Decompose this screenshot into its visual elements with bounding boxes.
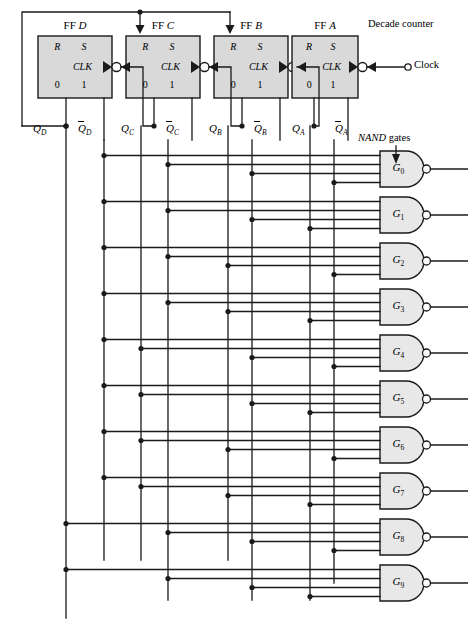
- gate-8-input-3-tap: [331, 548, 336, 553]
- nand-gate-8-bubble: [423, 533, 431, 541]
- gate-1-input-0-tap: [101, 199, 106, 204]
- gate-2-input-0-tap: [101, 245, 106, 250]
- nand-gate-1-label: G1: [393, 207, 405, 222]
- gate-2-input-1-tap: [165, 254, 170, 259]
- label-qd: QD: [33, 122, 46, 137]
- q-junction-dot: [239, 123, 244, 128]
- ff-b-clk-label: CLK: [249, 61, 268, 72]
- flipflop-title-b: FF B: [240, 19, 262, 31]
- label-qc-bar: QC: [166, 122, 179, 137]
- ff-c-input-r: R: [142, 41, 148, 52]
- gate-5-input-0-tap: [101, 383, 106, 388]
- nand-gate-0-label: G0: [393, 161, 405, 176]
- ffc-set-arrow: [136, 25, 145, 34]
- clock-label: Clock: [414, 59, 439, 70]
- nand-gate-7-label: G7: [393, 483, 405, 498]
- ff-a-clock-bubble: [358, 63, 367, 72]
- nand-gate-1-bubble: [423, 211, 431, 219]
- gate-7-input-1-tap: [138, 484, 143, 489]
- nand-gate-7-bubble: [423, 487, 431, 495]
- gate-5-input-3-tap: [307, 410, 312, 415]
- clock-terminal: [405, 64, 411, 70]
- ff-b-input-s: S: [257, 41, 262, 52]
- gate-4-input-3-tap: [331, 364, 336, 369]
- gate-6-input-1-tap: [138, 438, 143, 443]
- ff-b-input-r: R: [230, 41, 236, 52]
- flipflop-title-d: FF D: [64, 19, 87, 31]
- nand-gate-2-bubble: [423, 257, 431, 265]
- ff-c-input-s: S: [169, 41, 174, 52]
- ff-d-output-0: 0: [55, 79, 60, 90]
- feedback-junction-top: [137, 9, 142, 14]
- nand-gate-5-label: G5: [393, 391, 405, 406]
- gate-5-input-2-tap: [249, 401, 254, 406]
- nand-gate-6-label: G6: [393, 437, 405, 452]
- gate-6-input-3-tap: [331, 456, 336, 461]
- label-qa-bar: QA: [335, 122, 348, 137]
- nand-gate-4-bubble: [423, 349, 431, 357]
- ffb-set-arrow: [226, 25, 235, 34]
- decade-counter-diagram: FF DRSCLK01FF CRSCLK01FF BRSCLK01FF ARSC…: [0, 0, 468, 636]
- gate-3-input-3-tap: [307, 318, 312, 323]
- ff-b-output-1: 1: [257, 79, 262, 90]
- ff-b-output-0: 0: [231, 79, 236, 90]
- label-qa: QA: [292, 122, 305, 137]
- nand-gate-9-label: G9: [393, 575, 405, 590]
- gate-9-input-3-tap: [307, 594, 312, 599]
- gate-5-input-1-tap: [138, 392, 143, 397]
- gate-4-input-2-tap: [249, 355, 254, 360]
- label-qb: QB: [209, 122, 222, 137]
- gate-6-input-2-tap: [225, 447, 230, 452]
- nand-gate-5-bubble: [423, 395, 431, 403]
- gate-1-input-2-tap: [249, 217, 254, 222]
- gate-8-input-1-tap: [165, 530, 170, 535]
- gate-4-input-1-tap: [138, 346, 143, 351]
- clock-arrowhead: [367, 62, 376, 72]
- nand-gates-caption: NAND gates: [358, 132, 410, 143]
- gate-1-input-3-tap: [307, 226, 312, 231]
- ff-c-output-0: 0: [143, 79, 148, 90]
- ff-a-output-0: 0: [307, 79, 312, 90]
- nand-gate-6-bubble: [423, 441, 431, 449]
- ff-c-output-1: 1: [169, 79, 174, 90]
- gate-1-input-1-tap: [165, 208, 170, 213]
- ff-d-input-r: R: [54, 41, 60, 52]
- gate-0-input-0-tap: [101, 153, 106, 158]
- gate-3-input-1-tap: [165, 300, 170, 305]
- nand-gate-9-bubble: [423, 579, 431, 587]
- ff-a-input-s: S: [330, 41, 335, 52]
- nand-gate-2-label: G2: [393, 253, 405, 268]
- nand-gate-3-label: G3: [393, 299, 405, 314]
- gate-8-input-2-tap: [249, 539, 254, 544]
- label-qd-bar: QD: [78, 122, 91, 137]
- ff-a-input-r: R: [306, 41, 312, 52]
- gate-2-input-2-tap: [225, 263, 230, 268]
- ff-a-clk-label: CLK: [322, 61, 341, 72]
- gate-2-input-3-tap: [331, 272, 336, 277]
- gate-8-input-0-tap: [63, 521, 68, 526]
- ff-c-clk-label: CLK: [161, 61, 180, 72]
- ff-a-output-1: 1: [330, 79, 335, 90]
- gate-9-input-1-tap: [165, 576, 170, 581]
- gate-9-input-2-tap: [249, 585, 254, 590]
- q-junction-dot: [151, 123, 156, 128]
- label-qc: QC: [121, 122, 134, 137]
- gate-7-input-3-tap: [307, 502, 312, 507]
- ff-d-output-1: 1: [81, 79, 86, 90]
- gate-0-input-1-tap: [165, 162, 170, 167]
- gate-7-input-0-tap: [101, 475, 106, 480]
- gate-0-input-2-tap: [249, 171, 254, 176]
- flipflop-title-c: FF C: [152, 19, 174, 31]
- nand-gate-4-label: G4: [393, 345, 405, 360]
- ff-d-clock-bubble: [112, 63, 121, 72]
- nand-gate-3-bubble: [423, 303, 431, 311]
- ff-d-clk-label: CLK: [73, 61, 92, 72]
- gate-9-input-0-tap: [63, 567, 68, 572]
- ff-c-clock-bubble: [200, 63, 209, 72]
- gate-3-input-0-tap: [101, 291, 106, 296]
- nand-gate-0-bubble: [423, 165, 431, 173]
- gate-4-input-0-tap: [101, 337, 106, 342]
- gate-3-input-2-tap: [225, 309, 230, 314]
- label-qb-bar: QB: [254, 122, 267, 137]
- ff-d-input-s: S: [81, 41, 86, 52]
